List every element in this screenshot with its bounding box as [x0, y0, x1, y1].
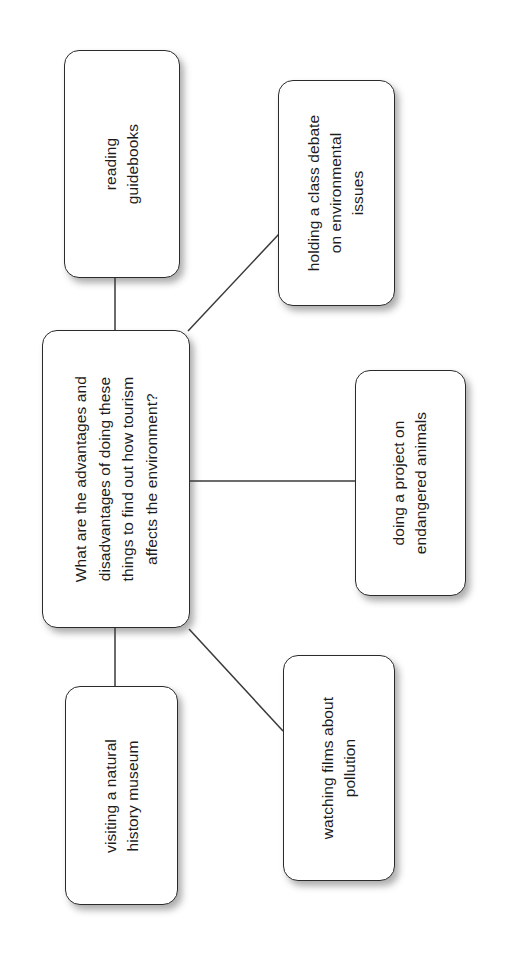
node-natural-history-museum[interactable]: visiting a natural history museum	[65, 686, 178, 905]
node-central-line-3: things to find out how tourism	[116, 376, 140, 582]
connector-central-to-films	[189, 629, 283, 731]
node-debate-label: holding a class debate on environmental …	[304, 115, 370, 271]
node-project-label: doing a project on endangered animals	[389, 412, 433, 554]
node-central-line-1: What are the advantages and	[69, 376, 93, 582]
node-central-line-4: affects the environment?	[140, 376, 164, 582]
node-films-pollution[interactable]: watching films about pollution	[283, 655, 395, 881]
node-debate-line-1: holding a class debate	[304, 115, 326, 271]
node-films-line-2: pollution	[339, 697, 361, 839]
node-debate-line-3: issues	[348, 115, 370, 271]
node-reading-label: reading guidebooks	[100, 124, 144, 204]
node-debate-line-2: on environmental	[326, 115, 348, 271]
node-central-question[interactable]: What are the advantages and disadvantage…	[42, 330, 190, 628]
node-class-debate[interactable]: holding a class debate on environmental …	[278, 80, 395, 306]
node-project-line-1: doing a project on	[389, 412, 411, 554]
mindmap-canvas: What are the advantages and disadvantage…	[0, 0, 506, 980]
node-reading-line-1: reading	[100, 124, 122, 204]
node-central-label: What are the advantages and disadvantage…	[69, 376, 163, 582]
node-museum-line-2: history museum	[122, 739, 144, 853]
node-films-line-1: watching films about	[317, 697, 339, 839]
node-museum-line-1: visiting a natural	[100, 739, 122, 853]
node-project-line-2: endangered animals	[411, 412, 433, 554]
node-museum-label: visiting a natural history museum	[100, 739, 144, 853]
node-reading-guidebooks[interactable]: reading guidebooks	[64, 50, 180, 278]
node-central-line-2: disadvantages of doing these	[92, 376, 116, 582]
node-endangered-animals-project[interactable]: doing a project on endangered animals	[355, 370, 466, 596]
node-films-label: watching films about pollution	[317, 697, 361, 839]
node-reading-line-2: guidebooks	[122, 124, 144, 204]
connector-central-to-debate	[188, 234, 279, 331]
